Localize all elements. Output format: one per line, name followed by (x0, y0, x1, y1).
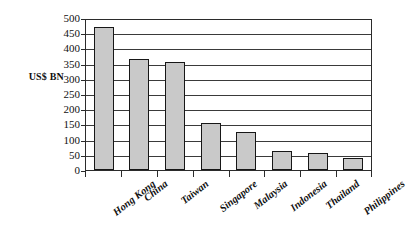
x-category-label: Malaysia (252, 178, 290, 211)
x-category-label: Taiwan (178, 178, 210, 206)
y-tick-label: 450 (48, 28, 80, 39)
y-tick-label: 300 (48, 74, 80, 85)
bar (343, 158, 363, 170)
bar-slot (335, 20, 371, 170)
y-tick-label: 250 (48, 89, 80, 100)
bar-series (86, 20, 371, 170)
x-category-label: Philippines (361, 178, 406, 217)
bar-slot (229, 20, 265, 170)
plot-area (85, 19, 372, 171)
bar-slot (157, 20, 193, 170)
y-tick-label: 50 (48, 150, 80, 161)
bar-slot (86, 20, 122, 170)
bar (165, 62, 185, 170)
bar-slot (193, 20, 229, 170)
bar (201, 123, 221, 170)
y-tick-label: 100 (48, 135, 80, 146)
bar-slot (300, 20, 336, 170)
bar (129, 59, 149, 170)
x-category-label: Indonesia (288, 178, 329, 213)
y-tick-label: 500 (48, 13, 80, 24)
bar (308, 153, 328, 170)
y-tick-label: 350 (48, 59, 80, 70)
y-tick-label: 150 (48, 119, 80, 130)
bar (236, 132, 256, 170)
y-tick-label: 200 (48, 104, 80, 115)
y-tick-label: 0 (48, 165, 80, 176)
y-tick-label: 400 (48, 43, 80, 54)
x-axis-category-labels: Hong KongChinaTaiwanSingaporeMalaysiaInd… (0, 176, 394, 236)
x-category-label: Thailand (324, 178, 362, 211)
bar (272, 151, 292, 170)
bar-slot (264, 20, 300, 170)
bar-slot (122, 20, 158, 170)
bar (94, 27, 114, 170)
scan-artifact-text (0, 0, 394, 9)
x-category-label: Singapore (217, 178, 259, 214)
